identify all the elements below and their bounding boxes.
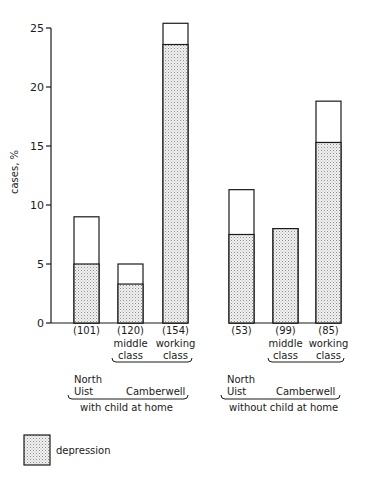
y-axis: 0510152025 cases, %	[9, 22, 51, 330]
bar-depression	[273, 229, 298, 323]
y-tick-label: 20	[30, 81, 44, 94]
bar	[316, 101, 341, 323]
bar	[229, 190, 254, 323]
y-axis-label: cases, %	[9, 150, 20, 194]
group2-place2: Camberwell	[276, 386, 335, 397]
group-with-child: North Uist Camberwell with child at home	[68, 374, 188, 413]
bar	[74, 217, 99, 323]
legend: depression	[24, 435, 111, 465]
group2-place1-line1: North	[227, 374, 255, 385]
y-tick-label: 25	[30, 22, 44, 35]
bar-depression	[163, 45, 188, 323]
bar-n-label: (53)	[231, 325, 252, 336]
y-tick-label: 10	[30, 199, 44, 212]
group1-place1-line1: North	[74, 374, 102, 385]
bar-class-line2: class	[273, 350, 298, 361]
y-tick-label: 0	[37, 317, 44, 330]
legend-label-depression: depression	[56, 445, 111, 456]
bar	[118, 264, 143, 323]
bar-depression	[316, 142, 341, 323]
bar-n-label: (154)	[162, 325, 189, 336]
bar-class-line1: working	[309, 338, 349, 349]
bar	[273, 229, 298, 323]
chart-canvas: 0510152025 cases, % (101)(120)middleclas…	[0, 0, 368, 485]
bar-class-line1: middle	[113, 338, 147, 349]
bar-n-label: (85)	[318, 325, 339, 336]
group2-label: without child at home	[229, 402, 338, 413]
group-without-child: North Uist Camberwell without child at h…	[221, 374, 340, 413]
bar-class-line2: class	[118, 350, 143, 361]
legend-swatch-depression	[24, 435, 50, 465]
y-tick-label: 15	[30, 140, 44, 153]
group2-place1-line2: Uist	[227, 386, 246, 397]
group1-label: with child at home	[80, 402, 173, 413]
group1-place2: Camberwell	[126, 386, 185, 397]
bar-n-label: (99)	[275, 325, 296, 336]
bar-class-line2: class	[316, 350, 341, 361]
bar	[163, 23, 188, 323]
bar-depression	[229, 235, 254, 324]
bar-class-line2: class	[163, 350, 188, 361]
bars	[74, 23, 341, 323]
bar-n-label: (120)	[117, 325, 144, 336]
bar-depression	[74, 264, 99, 323]
group1-place1-line2: Uist	[74, 386, 93, 397]
bar-depression	[118, 284, 143, 323]
bar-n-label: (101)	[73, 325, 100, 336]
y-tick-label: 5	[37, 258, 44, 271]
bar-class-line1: middle	[268, 338, 302, 349]
bar-class-line1: working	[156, 338, 196, 349]
